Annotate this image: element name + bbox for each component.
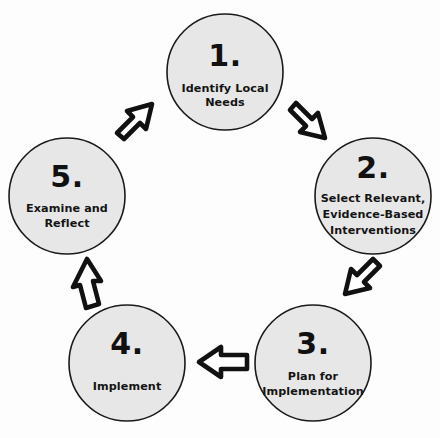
- cycle-node-5-shape[interactable]: [9, 138, 125, 254]
- arrow-step1-to-step2: [290, 103, 325, 138]
- cycle-node-3-label-line1: Plan for: [288, 370, 339, 383]
- cycle-node-5-label-line1: Examine and: [26, 202, 108, 215]
- cycle-node-4-shape[interactable]: [69, 305, 185, 421]
- cycle-node-4[interactable]: 4. Implement: [69, 305, 185, 421]
- cycle-node-5-label-line2: Reflect: [44, 217, 90, 230]
- cycle-node-3-label-line2: Implementation: [262, 385, 364, 398]
- arrow-step2-to-step3: [345, 259, 380, 294]
- cycle-node-1-label-line2: Needs: [205, 96, 245, 109]
- arrow-step3-to-step4: [199, 347, 247, 377]
- cycle-node-3[interactable]: 3. Plan for Implementation: [255, 305, 371, 421]
- cycle-node-1[interactable]: 1. Identify Local Needs: [167, 14, 283, 130]
- cycle-node-5-number: 5.: [50, 159, 83, 194]
- cycle-diagram: 1. Identify Local Needs 2. Select Releva…: [0, 0, 440, 438]
- arrow-step4-to-step5: [73, 259, 101, 308]
- cycle-node-2-label-line3: Interventions: [330, 224, 416, 237]
- cycle-node-3-shape[interactable]: [255, 305, 371, 421]
- cycle-node-2-label-line1: Select Relevant,: [321, 192, 426, 205]
- cycle-node-2-label-line2: Evidence-Based: [323, 208, 424, 221]
- cycle-diagram-canvas: 1. Identify Local Needs 2. Select Releva…: [0, 0, 440, 438]
- arrow-step5-to-step1: [117, 104, 152, 139]
- cycle-node-1-number: 1.: [208, 38, 241, 73]
- cycle-node-3-number: 3.: [296, 326, 329, 361]
- cycle-node-1-label-line1: Identify Local: [181, 82, 268, 95]
- cycle-node-5[interactable]: 5. Examine and Reflect: [9, 138, 125, 254]
- cycle-node-2[interactable]: 2. Select Relevant, Evidence-Based Inter…: [315, 138, 431, 254]
- cycle-node-2-number: 2.: [356, 150, 389, 185]
- cycle-node-4-label-line1: Implement: [93, 380, 162, 393]
- cycle-node-4-number: 4.: [110, 326, 143, 361]
